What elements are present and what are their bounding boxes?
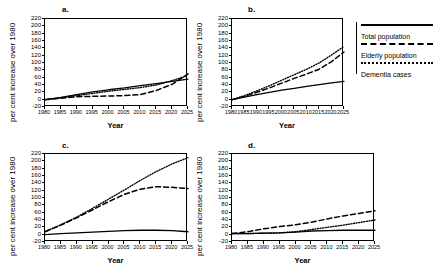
y-tick-label: 220: [22, 150, 41, 156]
y-tick-label: 80: [22, 66, 41, 72]
y-tick-label: 140: [209, 179, 228, 185]
y-tick-mark: [42, 55, 45, 56]
legend: Total population Elderly population Deme…: [356, 22, 440, 74]
y-tick-label: 200: [209, 157, 228, 163]
y-tick-label: 20: [22, 88, 41, 94]
x-tick-mark: [155, 106, 156, 109]
x-tick-mark: [243, 106, 244, 109]
y-tick-mark: [229, 175, 232, 176]
legend-entry-elderly-population: Elderly population: [361, 43, 440, 60]
y-tick-label: 40: [22, 216, 41, 222]
panel-d-series-lines: [232, 154, 375, 242]
y-tick-mark: [229, 219, 232, 220]
y-tick-mark: [229, 25, 232, 26]
y-tick-label: 120: [22, 187, 41, 193]
y-tick-mark: [229, 153, 232, 154]
legend-label-elderly-population: Elderly population: [361, 51, 440, 60]
panel-a-series-lines: [45, 19, 188, 107]
y-tick-label: 80: [22, 201, 41, 207]
y-tick-mark: [42, 77, 45, 78]
y-tick-mark: [42, 175, 45, 176]
y-tick-label: 100: [209, 59, 228, 65]
y-tick-mark: [42, 40, 45, 41]
x-tick-mark: [44, 241, 45, 244]
x-tick-mark: [310, 241, 311, 244]
y-tick-label: 120: [209, 187, 228, 193]
y-tick-mark: [42, 99, 45, 100]
y-tick-mark: [42, 47, 45, 48]
y-tick-mark: [229, 55, 232, 56]
y-tick-label: 220: [209, 15, 228, 21]
x-tick-mark: [76, 241, 77, 244]
x-tick-mark: [123, 241, 124, 244]
x-tick-mark: [231, 106, 232, 109]
series-line-dementia-cases: [232, 47, 344, 100]
y-tick-mark: [229, 234, 232, 235]
legend-label-dementia-cases: Dementia cases: [361, 70, 440, 79]
y-tick-mark: [229, 182, 232, 183]
y-tick-mark: [42, 160, 45, 161]
y-tick-mark: [229, 33, 232, 34]
panel-a-y-axis-label: per cent increase over 1980: [9, 23, 17, 122]
x-tick-mark: [92, 241, 93, 244]
x-tick-mark: [108, 106, 109, 109]
y-tick-label: 100: [22, 194, 41, 200]
y-tick-label: 60: [22, 74, 41, 80]
x-tick-mark: [231, 241, 232, 244]
panel-c-series-lines: [45, 154, 188, 242]
y-tick-mark: [229, 160, 232, 161]
panel-c-y-axis-label: per cent increase over 1980: [9, 157, 17, 256]
figure-panel-grid: a. per cent increase over 1980 220200180…: [0, 0, 442, 273]
x-tick-mark: [318, 106, 319, 109]
y-tick-label: 80: [209, 66, 228, 72]
x-tick-mark: [60, 241, 61, 244]
legend-swatch-dashed-icon: [361, 43, 433, 51]
y-tick-mark: [229, 47, 232, 48]
y-tick-label: 120: [22, 52, 41, 58]
x-tick-mark: [123, 106, 124, 109]
x-tick-mark: [263, 241, 264, 244]
y-tick-label: 0: [22, 96, 41, 102]
y-tick-label: 160: [22, 172, 41, 178]
x-tick-label: 2025: [177, 109, 197, 115]
x-tick-mark: [374, 241, 375, 244]
y-tick-label: 100: [22, 59, 41, 65]
y-tick-mark: [42, 168, 45, 169]
y-tick-mark: [229, 18, 232, 19]
y-tick-label: 220: [22, 15, 41, 21]
x-tick-mark: [358, 241, 359, 244]
panel-d-y-axis-label: per cent increase over 1980: [196, 157, 204, 256]
y-tick-mark: [42, 84, 45, 85]
x-tick-mark: [306, 106, 307, 109]
x-tick-mark: [139, 106, 140, 109]
y-tick-mark: [42, 219, 45, 220]
y-tick-label: 160: [209, 37, 228, 43]
panel-c-letter: c.: [62, 142, 69, 150]
x-tick-mark: [76, 106, 77, 109]
legend-swatch-dotted-icon: [361, 62, 433, 70]
x-tick-mark: [295, 241, 296, 244]
y-tick-label: 200: [22, 157, 41, 163]
y-tick-label: 60: [209, 209, 228, 215]
x-tick-mark: [293, 106, 294, 109]
y-tick-mark: [229, 197, 232, 198]
y-tick-mark: [229, 99, 232, 100]
panel-a-x-axis-label: Year: [44, 122, 187, 130]
x-tick-mark: [44, 106, 45, 109]
y-tick-label: 120: [209, 52, 228, 58]
panel-c-plot-area: [44, 153, 187, 241]
y-tick-label: 60: [22, 209, 41, 215]
y-tick-mark: [229, 168, 232, 169]
y-tick-mark: [42, 69, 45, 70]
x-tick-mark: [281, 106, 282, 109]
y-tick-mark: [229, 212, 232, 213]
y-tick-mark: [229, 190, 232, 191]
legend-label-total-population: Total population: [361, 32, 440, 41]
series-line-total-population: [45, 230, 188, 234]
legend-swatch-solid-icon: [361, 24, 433, 32]
panel-c-x-axis-label: Year: [44, 257, 187, 265]
x-tick-mark: [247, 241, 248, 244]
x-tick-label: 2025: [364, 244, 384, 250]
x-tick-mark: [342, 241, 343, 244]
x-tick-mark: [92, 106, 93, 109]
